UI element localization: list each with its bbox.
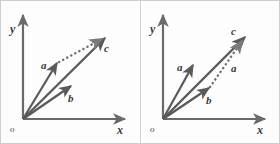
vector-b-translated-dotted [59, 39, 102, 62]
vector-b [163, 88, 209, 119]
vector-addition-figure: y x o a b c [0, 0, 280, 144]
vector-c [163, 37, 245, 119]
origin-label: o [150, 124, 155, 134]
y-axis-label: y [8, 22, 16, 36]
y-axis-label: y [148, 22, 156, 36]
panel-right: y x o a b c a [140, 1, 280, 144]
vector-c [23, 38, 105, 119]
vector-b-label: b [206, 94, 212, 106]
vector-b-label: b [68, 92, 74, 104]
vector-a-label: a [177, 61, 183, 73]
vector-a-translated-label: a [231, 62, 237, 74]
vector-a-label: a [41, 59, 47, 71]
x-axis-label: x [256, 123, 263, 137]
origin-label: o [10, 124, 15, 134]
vector-c-label: c [104, 42, 109, 54]
vector-a-translated-dotted [210, 41, 242, 87]
vector-c-label: c [231, 25, 236, 37]
vector-b [23, 86, 71, 119]
panel-left: y x o a b c [1, 1, 141, 144]
x-axis-label: x [116, 123, 123, 137]
